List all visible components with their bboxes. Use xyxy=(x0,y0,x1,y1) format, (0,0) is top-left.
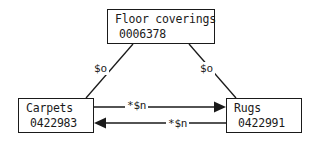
node-carpets[interactable]: Carpets 0422983 xyxy=(18,98,94,133)
node-rugs-code: 0422991 xyxy=(234,116,285,130)
edge-label-floor-coverings-carpets: $o xyxy=(92,62,109,75)
relation-diagram: Floor coverings 0006378 Carpets 0422983 … xyxy=(0,0,316,147)
arrowhead-right-icon xyxy=(214,102,226,113)
edge-label-rugs-carpets: *$n xyxy=(166,117,189,130)
node-rugs[interactable]: Rugs 0422991 xyxy=(226,98,302,133)
node-floor-coverings-title: Floor coverings xyxy=(115,12,216,26)
node-carpets-code: 0422983 xyxy=(26,116,77,130)
node-floor-coverings-code: 0006378 xyxy=(115,27,166,41)
node-carpets-title: Carpets xyxy=(26,101,73,115)
edge-label-carpets-rugs: *$n xyxy=(125,99,148,112)
arrowhead-left-icon xyxy=(94,118,106,129)
edge-label-floor-coverings-rugs: $o xyxy=(198,62,215,75)
node-floor-coverings[interactable]: Floor coverings 0006378 xyxy=(107,9,215,44)
node-rugs-title: Rugs xyxy=(234,101,261,115)
